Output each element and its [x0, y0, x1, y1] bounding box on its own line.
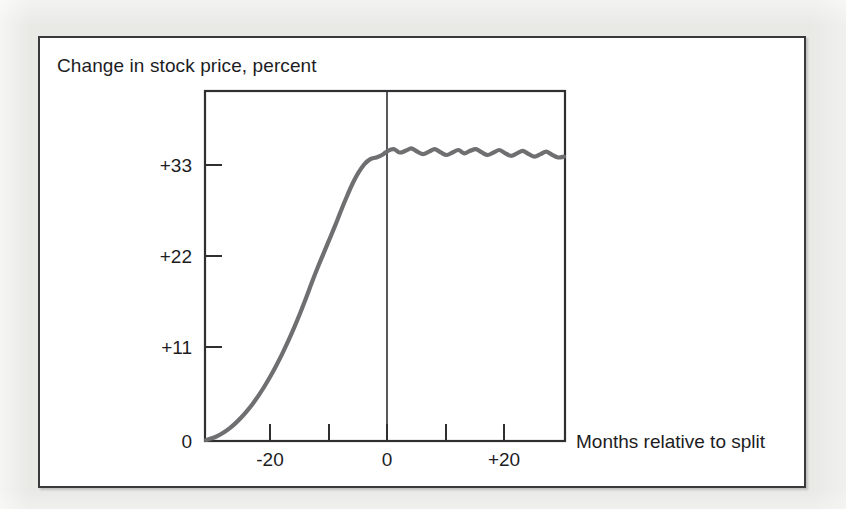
y-tick-label-22: +22: [160, 246, 192, 267]
chart-frame: Change in stock price, percent +33 +22 +…: [38, 36, 806, 488]
figure-container: Change in stock price, percent +33 +22 +…: [0, 0, 846, 509]
x-tick-label-minus20: -20: [256, 449, 283, 470]
plot-area-border: [205, 91, 565, 441]
y-tick-label-11: +11: [161, 337, 192, 358]
y-tick-label-33: +33: [160, 155, 192, 176]
x-tick-label-0: 0: [382, 449, 393, 470]
x-axis-label: Months relative to split: [576, 431, 766, 452]
chart-plot: +33 +22 +11 0 -20 0 +20 Months relative …: [40, 38, 804, 486]
x-axis-ticks: [270, 424, 504, 440]
y-axis-ticks: [206, 165, 222, 347]
stock-price-series: [206, 148, 564, 440]
y-tick-label-0: 0: [181, 431, 192, 452]
x-tick-label-plus20: +20: [488, 449, 520, 470]
